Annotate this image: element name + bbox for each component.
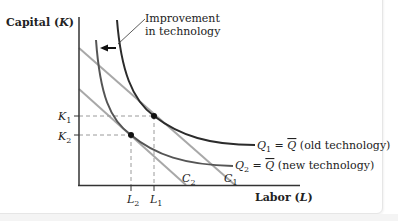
y-tick-k2: K2: [57, 130, 71, 145]
y-tick-k1: K1: [57, 110, 71, 125]
tangency-point-old: [151, 113, 157, 119]
x-tick-l2: L2: [126, 193, 139, 208]
isoquant-label-q2: Q2 = Q (new technology): [235, 159, 374, 174]
annotation-line1: Improvement: [145, 12, 220, 25]
x-tick-l1: L1: [149, 193, 162, 208]
isoquant-q2-new: [96, 40, 233, 166]
isoquant-diagram: Capital (K) Improvement in technology K1…: [0, 0, 398, 221]
x-axis-label: Labor (L): [255, 191, 313, 204]
shift-arrow-icon: [100, 45, 116, 52]
annotation-line2: in technology: [145, 25, 221, 38]
isocost-label-c2: C2: [182, 172, 196, 187]
tangency-point-new: [128, 132, 134, 138]
isoquant-label-q1: Q1 = Q (old technology): [257, 139, 390, 154]
isocost-label-c1: C1: [224, 172, 238, 187]
isoquant-q1-old: [117, 20, 255, 145]
dashed-guides: [79, 116, 154, 185]
y-axis-label: Capital (K): [6, 16, 74, 29]
annotation-leader-line: [118, 19, 145, 44]
